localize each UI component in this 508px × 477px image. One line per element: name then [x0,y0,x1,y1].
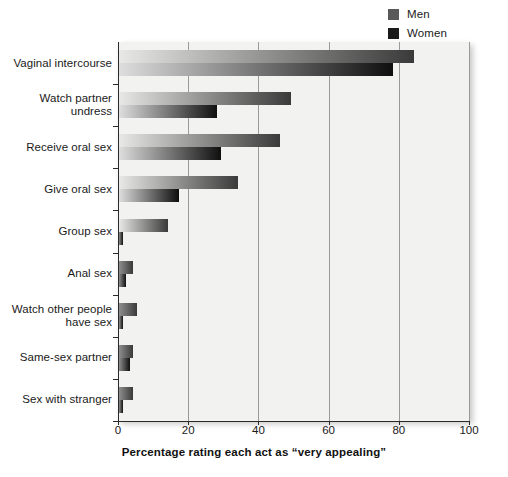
bar-men [119,176,238,189]
x-tick-label: 100 [459,424,478,436]
y-axis-category-labels: Vaginal intercourseWatch partnerundressR… [0,42,112,421]
y-axis-label: Watch partnerundress [0,92,112,118]
bar-group [119,303,470,329]
bar-men [119,134,280,147]
bar-women [119,232,123,245]
x-tick-label: 40 [252,424,265,436]
bar-women [119,358,130,371]
y-tick [113,253,118,254]
bar-group [119,50,470,76]
y-tick [113,379,118,380]
x-tick-label: 0 [115,424,121,436]
bar-group [119,387,470,413]
bar-group [119,345,470,371]
y-axis-label: Vaginal intercourse [0,57,112,70]
legend-item-women: Women [388,25,498,42]
y-axis-label: Sex with stranger [0,393,112,406]
bar-men [119,92,291,105]
bar-men [119,261,133,274]
bar-group [119,134,470,160]
y-axis-label: Receive oral sex [0,141,112,154]
bar-women [119,316,123,329]
y-tick [113,295,118,296]
x-axis-line [118,421,470,422]
bar-women [119,147,221,160]
bar-women [119,400,123,413]
legend-label-women: Women [407,28,447,40]
bar-group [119,92,470,118]
bar-women [119,63,393,76]
x-axis-title: Percentage rating each act as “very appe… [0,446,508,458]
y-axis-label: Group sex [0,225,112,238]
bar-women [119,105,217,118]
plot-area [118,42,470,421]
y-axis-label: Watch other peoplehave sex [0,303,112,329]
bar-men [119,50,414,63]
chart-legend: Men Women [388,6,498,44]
bar-women [119,189,179,202]
bar-women [119,274,126,287]
y-tick [113,210,118,211]
bar-group [119,176,470,202]
legend-swatch-women [388,28,399,39]
x-tick-label: 60 [322,424,335,436]
x-tick-label: 20 [182,424,195,436]
y-tick [113,337,118,338]
legend-label-men: Men [407,9,430,21]
chart-figure: Men Women Vaginal intercourseWatch partn… [0,0,508,477]
legend-item-men: Men [388,6,498,23]
bar-men [119,387,133,400]
x-tick-label: 80 [392,424,405,436]
legend-swatch-men [388,9,399,20]
y-axis-label: Same-sex partner [0,351,112,364]
bar-group [119,219,470,245]
y-axis-label: Anal sex [0,267,112,280]
y-tick [113,84,118,85]
y-axis-label: Give oral sex [0,183,112,196]
y-tick [113,126,118,127]
bar-men [119,345,133,358]
bar-group [119,261,470,287]
bar-men [119,219,168,232]
y-tick [113,168,118,169]
bar-men [119,303,137,316]
